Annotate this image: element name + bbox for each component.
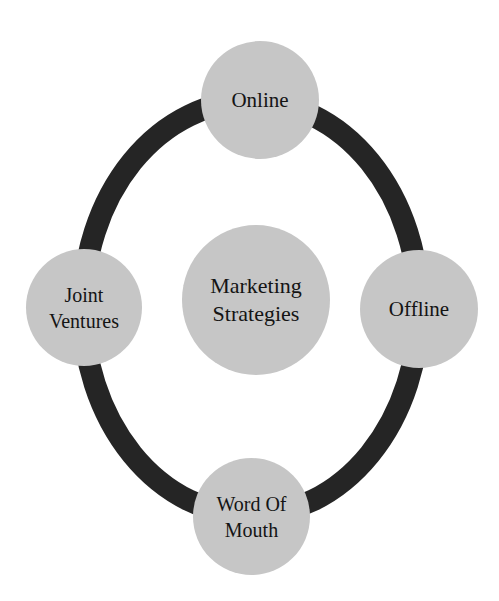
node-online: Online <box>201 41 319 159</box>
node-joint-ventures: Joint Ventures <box>26 249 142 366</box>
node-offline-label: Offline <box>389 297 449 321</box>
node-word-of-mouth-label: Word Of Mouth <box>216 491 286 543</box>
marketing-strategies-cycle-diagram: Marketing Strategies Online Offline Word… <box>0 0 499 601</box>
node-joint-ventures-label: Joint Ventures <box>49 282 119 334</box>
node-offline: Offline <box>360 250 478 368</box>
node-online-label: Online <box>231 88 288 112</box>
node-word-of-mouth: Word Of Mouth <box>193 458 310 575</box>
center-node-marketing-strategies: Marketing Strategies <box>182 225 330 375</box>
center-node-label: Marketing Strategies <box>210 272 302 328</box>
